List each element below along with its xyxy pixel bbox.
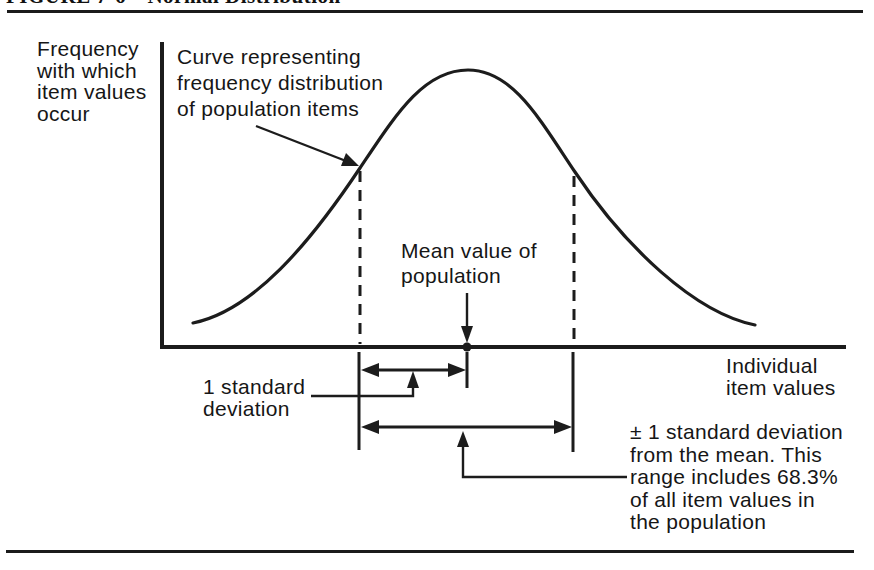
one-std-annotation: 1 standard deviation	[203, 376, 343, 420]
bottom-rule	[6, 550, 854, 553]
one-std-range-arrowhead-right	[448, 363, 466, 377]
figure-page: FIGURE 7-6 Normal Distribution	[0, 0, 874, 570]
mean-marker-dot	[463, 343, 472, 352]
one-std-range-arrowhead-left	[361, 363, 379, 377]
curve-pointer-arrowhead	[341, 153, 359, 166]
mean-annotation: Mean value of population	[401, 238, 611, 288]
pm-std-leader-arrowhead	[457, 431, 469, 447]
x-axis-label: Individual item values	[726, 355, 866, 399]
one-std-leader-arrowhead	[407, 371, 419, 388]
y-axis-label: Frequency with which item values occur	[37, 38, 177, 124]
pm-std-range-arrowhead-right	[554, 420, 572, 434]
mean-pointer-arrowhead	[461, 326, 473, 343]
pm-std-annotation: ± 1 standard deviation from the mean. Th…	[630, 421, 866, 534]
pm-std-range-arrowhead-left	[361, 420, 379, 434]
curve-annotation: Curve representing frequency distributio…	[177, 44, 447, 122]
curve-pointer-arrow-line	[256, 126, 346, 161]
pm-std-leader-line	[463, 446, 627, 477]
